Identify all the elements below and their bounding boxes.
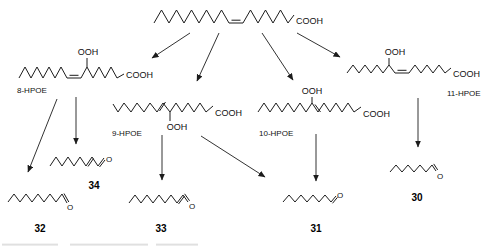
cooh-label: COOH [126, 70, 153, 80]
zigzag-chain [258, 103, 361, 112]
arrow-to-9hpoe [197, 33, 219, 81]
arrow-to-8hpoe [152, 33, 190, 58]
aldehyde-o-label: O [189, 202, 195, 211]
reaction-scheme: COOH OOH COOH 8-HPOE OOH COOH 9-HPOE OOH… [0, 0, 490, 246]
ooh-label: OOH [78, 47, 99, 57]
zigzag-chain [347, 65, 395, 73]
aldehyde-o-label: O [106, 155, 112, 164]
structure-11-hpoe: OOH COOH 11-HPOE [347, 47, 481, 98]
carbonyl-double-bond-inner [64, 194, 69, 203]
zigzag-chain [8, 194, 67, 203]
scheme-canvas: COOH OOH COOH 8-HPOE OOH COOH 9-HPOE OOH… [0, 0, 490, 246]
compound-name-9-hpoe: 9-HPOE [112, 129, 142, 138]
cooh-label: COOH [363, 109, 390, 119]
branch-arrows [152, 33, 340, 81]
zigzag-chain [50, 157, 104, 166]
compound-name-10-hpoe: 10-HPOE [259, 129, 293, 138]
structure-9-hpoe: OOH COOH 9-HPOE [112, 102, 242, 138]
zigzag-chain [243, 10, 294, 23]
cooh-label: COOH [296, 16, 323, 26]
structure-30: O 30 [390, 164, 443, 203]
zigzag-chain [81, 67, 124, 78]
ooh-label: OOH [167, 122, 188, 132]
zigzag-chain [409, 65, 451, 73]
zigzag-chain [390, 165, 436, 172]
compound-number-34: 34 [88, 180, 100, 191]
arrow-to-11hpoe [297, 33, 340, 57]
cropped-caption-artifact [2, 244, 198, 246]
compound-name-11-hpoe: 11-HPOE [447, 89, 481, 98]
compound-number-30: 30 [411, 192, 423, 203]
compound-name-8-hpoe: 8-HPOE [17, 86, 47, 95]
cooh-label: COOH [215, 108, 242, 118]
arrow-to-10hpoe [262, 33, 293, 80]
aldehyde-o-label: O [437, 172, 443, 181]
structure-34: O 34 [50, 155, 112, 191]
zigzag-chain [129, 195, 188, 203]
substrate-structure: COOH [154, 10, 323, 26]
structure-32: O 32 [8, 194, 73, 235]
zigzag-chain [113, 103, 213, 112]
zigzag-chain [154, 10, 229, 23]
structure-31: O 31 [283, 191, 343, 234]
aldehyde-o-label: O [67, 203, 73, 212]
structure-8-hpoe: OOH COOH 8-HPOE [17, 47, 153, 95]
carbonyl-double-bond-inner [185, 194, 190, 201]
compound-number-32: 32 [34, 223, 46, 234]
cooh-label: COOH [453, 69, 480, 79]
aldehyde-o-label: O [337, 191, 343, 200]
arrow-9hpoe-to-31 [201, 136, 265, 177]
structure-10-hpoe: OOH COOH 10-HPOE [258, 86, 390, 138]
zigzag-chain [19, 67, 67, 78]
ooh-label: OOH [385, 47, 406, 57]
compound-number-33: 33 [155, 223, 167, 234]
arrow-8hpoe-to-32 [28, 99, 57, 172]
structure-33: O 33 [129, 194, 195, 234]
ooh-label: OOH [302, 86, 323, 96]
compound-number-31: 31 [310, 223, 322, 234]
zigzag-chain [283, 195, 336, 202]
